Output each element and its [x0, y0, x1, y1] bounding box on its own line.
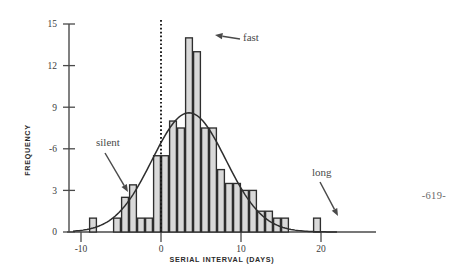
histogram-bar [250, 190, 257, 232]
histogram-bar [114, 218, 121, 232]
y-tick-label: 12 [48, 61, 58, 71]
y-tick-label: 3 [52, 186, 57, 196]
annotation-arrow-head-fast [215, 33, 223, 39]
histogram-bar [90, 218, 97, 232]
x-axis-title: SERIAL INTERVAL (DAYS) [170, 255, 275, 264]
histogram-bar [226, 183, 233, 232]
histogram-bar [314, 218, 321, 232]
histogram-bar [170, 121, 177, 232]
histogram-bar [242, 190, 249, 232]
annotation-arrow-line-long [320, 182, 334, 209]
histogram-bar [154, 156, 161, 232]
histogram-bar [186, 38, 193, 232]
histogram-bar [138, 218, 145, 232]
x-tick-label: 20 [316, 244, 326, 254]
histogram-bar [210, 128, 217, 232]
y-tick-label: 9 [52, 103, 57, 113]
x-tick-label: 10 [236, 244, 246, 254]
annotation-arrow-line-silent [105, 153, 124, 186]
annotation-label-silent: silent [96, 136, 120, 148]
histogram-bar [202, 128, 209, 232]
histogram-bar [146, 218, 153, 232]
y-tick-label: 15 [48, 19, 58, 29]
x-tick-label: -10 [75, 244, 88, 254]
y-tick-label: 0 [52, 227, 57, 237]
x-tick-label: 0 [159, 244, 164, 254]
y-axis-title: FREQUENCY [23, 124, 32, 175]
histogram-bar [194, 52, 201, 232]
histogram-bar [282, 218, 289, 232]
histogram-figure: 03-691215 -1001020 FREQUENCY SERIAL INTE… [0, 0, 456, 273]
annotation-arrow-line-fast [222, 36, 240, 39]
histogram-bars-group [90, 38, 321, 232]
page-number: -619- [422, 190, 446, 201]
histogram-bar [218, 170, 225, 232]
histogram-bar [162, 156, 169, 232]
x-tick-group: -1001020 [75, 232, 326, 254]
chart-canvas: 03-691215 -1001020 FREQUENCY SERIAL INTE… [0, 0, 456, 273]
histogram-bar [234, 183, 241, 232]
y-tick-group: 03-691215 [48, 19, 76, 237]
histogram-bar [178, 128, 185, 232]
annotation-label-fast: fast [243, 31, 259, 43]
annotation-label-long: long [312, 166, 332, 178]
y-tick-label: -6 [49, 144, 57, 154]
